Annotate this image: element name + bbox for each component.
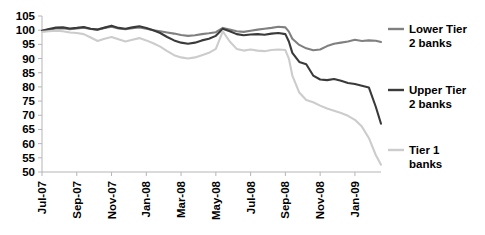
legend-label-line1: Upper Tier bbox=[409, 84, 467, 96]
x-axis-tick-label: May-08 bbox=[210, 180, 222, 220]
legend-label-line2: 2 banks bbox=[409, 98, 452, 110]
y-axis-ticks bbox=[38, 16, 42, 172]
x-axis-tick-label: Jan-09 bbox=[349, 181, 361, 217]
x-axis-tick-label: Sep-07 bbox=[71, 181, 83, 219]
series-line-tier-1-banks bbox=[42, 31, 381, 165]
legend-label-line2: banks bbox=[409, 158, 442, 170]
legend-label-line2: 2 banks bbox=[409, 37, 452, 49]
x-axis-tick-label: Nov-08 bbox=[314, 180, 326, 219]
y-axis-tick-labels: 50556065707580859095100105 bbox=[16, 10, 36, 178]
x-axis-tick-label: Jan-08 bbox=[140, 180, 152, 217]
y-axis-group: 50556065707580859095100105 bbox=[16, 10, 42, 178]
y-axis-tick-label: 60 bbox=[22, 138, 35, 150]
line-chart: 50556065707580859095100105 Jul-07Sep-07N… bbox=[0, 0, 485, 235]
x-axis-group: Jul-07Sep-07Nov-07Jan-08Mar-08May-08Jul-… bbox=[36, 172, 381, 220]
y-axis-tick-label: 65 bbox=[22, 123, 35, 135]
chart-legend: Lower Tier2 banksUpper Tier2 banksTier 1… bbox=[388, 23, 467, 170]
x-axis-tick-labels: Jul-07Sep-07Nov-07Jan-08Mar-08May-08Jul-… bbox=[36, 180, 361, 220]
chart-container: 50556065707580859095100105 Jul-07Sep-07N… bbox=[0, 0, 485, 235]
x-axis-tick-label: Nov-07 bbox=[106, 181, 118, 219]
y-axis-tick-label: 75 bbox=[22, 95, 35, 107]
series-lines bbox=[42, 26, 381, 165]
y-axis-tick-label: 100 bbox=[16, 24, 35, 36]
y-axis-tick-label: 80 bbox=[22, 81, 35, 93]
y-axis-tick-label: 85 bbox=[22, 67, 35, 79]
y-axis-tick-label: 90 bbox=[22, 53, 35, 65]
legend-label-line1: Lower Tier bbox=[409, 23, 467, 35]
x-axis-tick-label: Mar-08 bbox=[175, 180, 187, 218]
x-axis-tick-label: Jul-08 bbox=[245, 180, 257, 214]
x-axis-tick-label: Jul-07 bbox=[36, 181, 48, 214]
y-axis-tick-label: 55 bbox=[22, 152, 35, 164]
y-axis-tick-label: 105 bbox=[16, 10, 36, 22]
y-axis-tick-label: 50 bbox=[22, 166, 35, 178]
x-axis-ticks bbox=[42, 172, 355, 176]
x-axis-tick-label: Sep-08 bbox=[279, 180, 291, 218]
y-axis-tick-label: 95 bbox=[22, 38, 35, 50]
y-axis-tick-label: 70 bbox=[22, 109, 35, 121]
legend-label-line1: Tier 1 bbox=[409, 144, 440, 156]
